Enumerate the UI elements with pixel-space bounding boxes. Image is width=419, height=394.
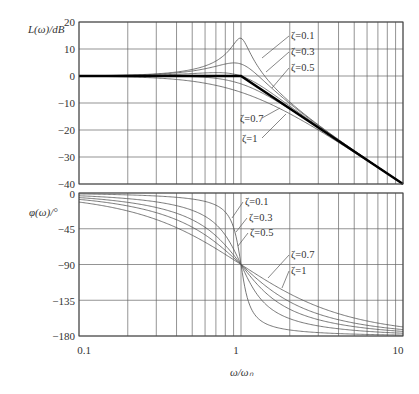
annotation-leader	[238, 233, 248, 246]
tick-label: −135	[52, 295, 75, 307]
tick-label: −90	[58, 259, 76, 271]
curve-label: ζ=0.1	[291, 30, 314, 42]
tick-label: −10	[58, 97, 76, 109]
tick-label: 0	[70, 70, 76, 82]
tick-label: 0.1	[77, 344, 91, 356]
annotation-leader	[236, 218, 247, 232]
annotation-leader	[262, 114, 286, 138]
magnitude-y-ticks: 20 10 0 −10 −20 −30 −40	[58, 16, 76, 190]
bode-plot: L(ω)/dB φ(ω)/° ω/ωₙ 20 10 0 −10 −20 −30 …	[0, 0, 419, 394]
tick-label: −180	[52, 330, 75, 342]
curve-label: ζ=0.3	[291, 46, 314, 58]
tick-label: 1	[233, 344, 239, 356]
tick-label: 0	[70, 188, 76, 200]
phase-y-axis-label: φ(ω)/°	[29, 206, 58, 219]
curve-label: ζ=0.7	[240, 113, 263, 125]
annotation-leader	[266, 52, 289, 72]
tick-label: −30	[58, 151, 76, 163]
curve-label: ζ=0.7	[291, 249, 314, 261]
tick-label: 20	[64, 16, 76, 28]
curve-label: ζ=0.1	[245, 196, 268, 208]
annotation-leader	[268, 255, 289, 278]
curve-label: ζ=0.5	[250, 227, 273, 239]
annotation-leader	[262, 36, 289, 58]
annotation-leader	[272, 68, 289, 88]
grid-lines	[79, 22, 403, 336]
annotation-leader	[262, 108, 280, 118]
curve-label: ζ=0.5	[291, 62, 314, 74]
tick-label: 10	[393, 344, 405, 356]
x-ticks: 0.1 1 10	[77, 344, 404, 356]
tick-label: −45	[58, 223, 76, 235]
tick-label: 10	[64, 43, 76, 55]
tick-label: −20	[58, 124, 76, 136]
magnitude-y-axis-label: L(ω)/dB	[27, 23, 65, 36]
curve-label: ζ=1	[242, 133, 258, 145]
curve-annotations: ζ=0.1ζ=0.3ζ=0.5ζ=0.7ζ=1ζ=0.1ζ=0.3ζ=0.5ζ=…	[232, 30, 314, 288]
annotation-leader	[282, 271, 289, 288]
curve-label: ζ=0.3	[249, 212, 272, 224]
x-axis-label: ω/ωₙ	[230, 366, 254, 378]
curve-label: ζ=1	[291, 265, 307, 277]
